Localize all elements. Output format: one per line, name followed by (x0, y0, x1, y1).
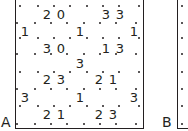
grid-dot (138, 71, 140, 73)
grid-dot (115, 123, 117, 125)
grid-dot (34, 22, 36, 24)
grid-dot (181, 105, 183, 107)
grid-dot (50, 22, 52, 24)
grid-dot (99, 88, 101, 90)
grid-dot (115, 22, 117, 24)
clue-number: 1 (57, 108, 65, 121)
clue-number: 1 (102, 42, 110, 55)
grid-dot (181, 5, 183, 7)
clue-number: 3 (116, 8, 124, 21)
clue-number: 3 (21, 91, 29, 104)
clue-number: 1 (109, 73, 117, 86)
clue-number: 3 (57, 73, 65, 86)
panel-a-label: A (1, 115, 11, 129)
grid-dot (83, 123, 85, 125)
panel-b-label: B (162, 115, 172, 129)
grid-dot (37, 5, 39, 7)
grid-dot (66, 22, 68, 24)
grid-dot (34, 53, 36, 55)
panel-b-frame (177, 0, 188, 129)
grid-dot (181, 123, 183, 125)
clue-number: 0 (57, 42, 65, 55)
clue-number: 0 (57, 8, 65, 21)
grid-dot (69, 5, 71, 7)
grid-dot (19, 71, 21, 73)
grid-dot (66, 53, 68, 55)
clue-number: 3 (130, 91, 138, 104)
grid-dot (138, 5, 140, 7)
grid-dot (181, 88, 183, 90)
clue-number: 2 (43, 8, 51, 21)
clue-number: 2 (95, 73, 103, 86)
grid-dot (19, 5, 21, 7)
grid-dot (118, 71, 120, 73)
grid-dot (99, 22, 101, 24)
grid-dot (53, 105, 55, 107)
grid-dot (50, 123, 52, 125)
grid-dot (19, 105, 21, 107)
clue-number: 2 (43, 108, 51, 121)
clue-number: 2 (43, 73, 51, 86)
grid-dot (37, 37, 39, 39)
clue-number: 1 (76, 25, 84, 38)
grid-dot (34, 123, 36, 125)
grid-dot (181, 71, 183, 73)
grid-dot (86, 37, 88, 39)
clue-number: 3 (43, 42, 51, 55)
grid-dot (69, 71, 71, 73)
clue-number: 1 (76, 91, 84, 104)
clue-number: 2 (95, 108, 103, 121)
grid-dot (181, 53, 183, 55)
grid-dot (50, 88, 52, 90)
grid-dot (99, 123, 101, 125)
grid-dot (135, 123, 137, 125)
clue-number: 3 (102, 8, 110, 21)
grid-dot (66, 88, 68, 90)
grid-dot (135, 53, 137, 55)
grid-dot (86, 105, 88, 107)
grid-dot (102, 37, 104, 39)
grid-dot (118, 105, 120, 107)
clue-number: 1 (130, 25, 138, 38)
clue-number: 1 (21, 25, 29, 38)
grid-dot (118, 37, 120, 39)
grid-dot (34, 88, 36, 90)
grid-dot (37, 71, 39, 73)
grid-dot (115, 88, 117, 90)
grid-dot (181, 37, 183, 39)
grid-dot (16, 22, 18, 24)
grid-dot (53, 5, 55, 7)
grid-dot (138, 37, 140, 39)
clue-number: 3 (109, 108, 117, 121)
grid-dot (37, 105, 39, 107)
grid-dot (53, 71, 55, 73)
clue-number: 3 (116, 42, 124, 55)
grid-dot (16, 88, 18, 90)
grid-dot (69, 37, 71, 39)
grid-dot (69, 105, 71, 107)
grid-dot (86, 71, 88, 73)
grid-dot (138, 105, 140, 107)
grid-dot (16, 53, 18, 55)
grid-dot (16, 123, 18, 125)
grid-dot (66, 123, 68, 125)
clue-number: 3 (76, 57, 84, 70)
grid-dot (53, 37, 55, 39)
grid-dot (181, 22, 183, 24)
grid-dot (99, 53, 101, 55)
grid-dot (86, 5, 88, 7)
